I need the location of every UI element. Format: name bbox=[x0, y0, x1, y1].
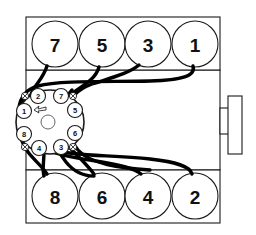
distributor-cap[interactable]: 2 7 1 5 8 6 4 bbox=[16, 89, 84, 156]
cylinder-1-label: 1 bbox=[190, 35, 201, 56]
cylinder-4-label: 4 bbox=[143, 187, 154, 208]
clip-lower-left[interactable] bbox=[21, 143, 28, 150]
distributor-terminal-3[interactable]: 3 bbox=[54, 140, 69, 155]
distributor-terminal-8[interactable]: 8 bbox=[17, 127, 32, 142]
distributor-terminal-2[interactable]: 2 bbox=[31, 89, 46, 104]
crankshaft-pulley-face bbox=[228, 96, 242, 154]
distributor-terminal-6[interactable]: 6 bbox=[68, 126, 83, 141]
cylinder-3-label: 3 bbox=[143, 35, 154, 56]
clip-upper-right[interactable] bbox=[69, 92, 76, 99]
cylinder-7-label: 7 bbox=[50, 35, 61, 56]
cylinder-1[interactable]: 1 bbox=[172, 21, 218, 67]
distributor-terminal-1[interactable]: 1 bbox=[17, 104, 32, 119]
cylinder-8[interactable]: 8 bbox=[32, 173, 78, 219]
distributor-terminal-3-label: 3 bbox=[59, 143, 63, 152]
engine-firing-order-diagram: 7 5 3 1 8 6 bbox=[0, 0, 256, 235]
cylinder-3[interactable]: 3 bbox=[125, 21, 171, 67]
distributor-terminal-2-label: 2 bbox=[36, 92, 40, 101]
diagram-canvas: 7 5 3 1 8 6 bbox=[0, 0, 256, 235]
distributor-terminal-1-label: 1 bbox=[22, 107, 26, 116]
cylinder-2[interactable]: 2 bbox=[172, 173, 218, 219]
distributor-terminal-6-label: 6 bbox=[73, 129, 77, 138]
distributor-terminal-5-label: 5 bbox=[73, 106, 77, 115]
clip-lower-right[interactable] bbox=[69, 143, 76, 150]
cylinder-8-label: 8 bbox=[50, 187, 61, 208]
cylinder-4[interactable]: 4 bbox=[125, 173, 171, 219]
distributor-terminal-7[interactable]: 7 bbox=[54, 89, 69, 104]
rotor-hub bbox=[41, 115, 55, 129]
distributor-terminal-5[interactable]: 5 bbox=[68, 103, 83, 118]
cylinder-6[interactable]: 6 bbox=[79, 173, 125, 219]
distributor-terminal-8-label: 8 bbox=[22, 130, 26, 139]
distributor-terminal-7-label: 7 bbox=[59, 92, 63, 101]
cylinder-5-label: 5 bbox=[97, 35, 108, 56]
cylinder-7[interactable]: 7 bbox=[32, 21, 78, 67]
cylinder-5[interactable]: 5 bbox=[79, 21, 125, 67]
cylinder-2-label: 2 bbox=[190, 187, 201, 208]
distributor-terminal-4[interactable]: 4 bbox=[32, 141, 47, 156]
clip-upper-left[interactable] bbox=[21, 92, 28, 99]
cylinder-6-label: 6 bbox=[97, 187, 108, 208]
